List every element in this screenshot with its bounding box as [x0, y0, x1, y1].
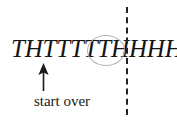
- coin-flip-sequence-figure: THTTTTTHHHH... start over: [0, 0, 177, 122]
- dashed-divider-line: [126, 7, 128, 115]
- coin-flip-sequence-text: THTTTTTHHHH...: [11, 36, 177, 62]
- start-over-caption: start over: [0, 92, 124, 110]
- up-arrow-icon: [37, 63, 50, 91]
